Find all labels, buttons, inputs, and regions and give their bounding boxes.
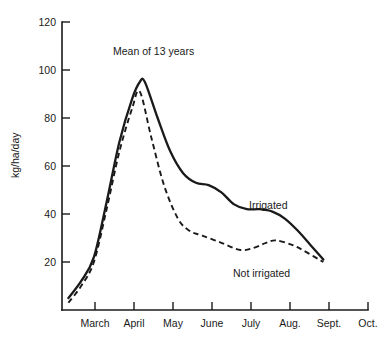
y-tick-label-40: 40: [30, 209, 56, 220]
y-tick-label-60: 60: [30, 161, 56, 172]
x-axis-ticks: [95, 302, 368, 310]
line-chart-figure: kg/ha/day 120 100 80 60 40 20 March Apri…: [0, 0, 386, 356]
y-tick-label-120: 120: [30, 17, 56, 28]
y-axis-ticks: [62, 22, 70, 262]
series-label-not-irrigated: Not irrigated: [233, 268, 290, 279]
series-line-irrigated: [68, 79, 323, 298]
y-tick-label-20: 20: [30, 257, 56, 268]
y-tick-label-100: 100: [30, 65, 56, 76]
x-tick-label-oct: Oct.: [331, 318, 386, 329]
y-tick-label-80: 80: [30, 113, 56, 124]
y-axis-title: kg/ha/day: [10, 119, 21, 191]
chart-annotation-mean: Mean of 13 years: [113, 46, 194, 57]
series-label-irrigated: Irrigated: [249, 200, 288, 211]
